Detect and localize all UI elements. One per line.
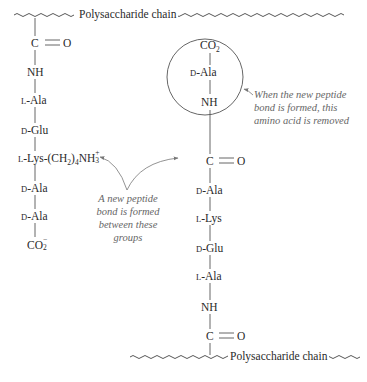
- right-nh: NH: [201, 302, 218, 314]
- left-terminal-carboxylate: CO−2: [27, 240, 49, 252]
- left-residue-3-lysine: L-Lys-(CH2)4NH+3: [18, 153, 101, 167]
- bottom-chain-label: Polysaccharide chain: [228, 351, 329, 363]
- new-bond-note: A new peptide bond is formed between the…: [88, 192, 168, 244]
- right-carbonyl-bottom-o: O: [237, 331, 245, 343]
- right-residue-2: L-Lys: [196, 213, 222, 225]
- right-residue-1: D-Ala: [196, 185, 223, 197]
- left-residue-5: D-Ala: [21, 211, 48, 223]
- right-carbonyl-bottom-c: C: [206, 331, 214, 343]
- bond-arrow-right: [127, 158, 178, 190]
- left-nh: NH: [27, 67, 44, 79]
- diagram-lines: [0, 0, 367, 382]
- right-carbonyl-top-o: O: [237, 156, 245, 168]
- right-carbonyl-top-c: C: [206, 156, 214, 168]
- bond-arrow-left: [100, 157, 127, 190]
- top-polysaccharide-wave-right: [170, 14, 344, 17]
- top-polysaccharide-wave-left: [14, 14, 74, 17]
- left-carbonyl-o: O: [63, 38, 71, 50]
- circled-terminal-carboxyl: CO2: [200, 40, 220, 54]
- removed-residue-note: When the new peptide bond is formed, thi…: [254, 88, 349, 127]
- bottom-polysaccharide-wave-right: [324, 356, 360, 359]
- removed-note-arrow: [244, 89, 253, 95]
- left-residue-1: L-Ala: [21, 95, 47, 107]
- right-residue-4: L-Ala: [196, 271, 222, 283]
- left-carbonyl-c: C: [31, 38, 39, 50]
- circled-nh: NH: [201, 97, 218, 109]
- right-residue-3: D-Glu: [196, 243, 223, 255]
- top-chain-label: Polysaccharide chain: [77, 9, 178, 21]
- left-residue-2: D-Glu: [21, 125, 48, 137]
- left-residue-4: D-Ala: [21, 183, 48, 195]
- circled-residue: D-Ala: [190, 67, 217, 79]
